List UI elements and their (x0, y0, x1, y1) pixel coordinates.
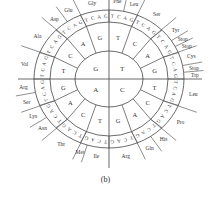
second-base-label: G (98, 34, 103, 41)
second-base-label: C (81, 111, 85, 118)
third-base-label: A (40, 86, 46, 91)
third-base-label: C (97, 138, 102, 144)
third-base-label: C (141, 22, 147, 28)
third-base-label: T (46, 50, 52, 55)
amino-acid-label: Arg (19, 84, 28, 90)
second-base-label: C (145, 99, 149, 106)
third-base-label: G (110, 139, 114, 144)
amino-acid-label: Trp (191, 72, 199, 78)
middle-divider (122, 105, 132, 132)
third-base-label: C (163, 109, 169, 115)
third-base-label: T (156, 34, 162, 40)
middle-divider (54, 57, 77, 68)
amino-acid-label: Glu (64, 7, 73, 13)
amino-acid-label: Stop (189, 65, 199, 71)
third-base-label: C (145, 126, 151, 132)
third-base-label: T (84, 17, 89, 23)
amino-acid-label: Asp (50, 16, 59, 22)
first-base-label: T (120, 65, 125, 73)
amino-acid-label: Tyr (172, 27, 180, 33)
third-base-label: T (135, 19, 140, 25)
second-base-label: C (68, 52, 72, 59)
third-base-label: C (160, 39, 166, 45)
third-base-label: C (71, 129, 77, 135)
amino-acid-label: Thr (57, 141, 65, 147)
amino-acid-label: Asn (38, 125, 47, 131)
third-base-label: A (66, 126, 72, 132)
third-base-label: C (171, 62, 177, 67)
figure-caption: (b) (0, 175, 211, 184)
third-base-label: T (43, 98, 49, 103)
amino-acid-label: Stop (182, 43, 192, 49)
amino-acid-label: Val (21, 61, 29, 67)
second-base-label: A (145, 52, 150, 59)
third-base-label: C (91, 15, 96, 21)
third-base-label: A (172, 68, 178, 73)
third-base-label: T (111, 14, 114, 19)
amino-acid-label: Leu (130, 1, 139, 7)
second-base-label: G (152, 67, 157, 74)
first-base-label: C (120, 86, 125, 94)
second-base-label: G (116, 117, 121, 124)
third-base-label: A (52, 38, 58, 44)
middle-divider (122, 26, 132, 53)
amino-acid-label: Met (76, 149, 85, 155)
third-base-label: A (90, 137, 95, 143)
amino-acid-label: Pro (177, 119, 185, 125)
amino-acid-divider (124, 0, 128, 11)
third-base-label: T (104, 139, 107, 144)
middle-divider (86, 105, 96, 132)
third-base-label: A (123, 15, 128, 21)
third-base-label: A (146, 26, 152, 32)
third-base-label: A (140, 130, 146, 136)
third-base-label: C (41, 91, 47, 96)
amino-acid-divider (16, 92, 36, 96)
second-base-label: T (116, 34, 120, 41)
amino-acid-label: Stop (178, 36, 188, 42)
third-base-label: A (116, 138, 121, 144)
third-base-label: C (172, 86, 178, 91)
third-base-label: C (117, 14, 122, 20)
third-base-label: G (104, 14, 108, 19)
middle-divider (140, 90, 163, 101)
second-base-label: C (133, 40, 137, 47)
amino-acid-label: His (160, 136, 168, 142)
third-base-label: A (41, 61, 47, 66)
amino-acid-label: Cys (187, 53, 196, 59)
amino-acid-label: Ala (34, 33, 43, 39)
second-base-label: T (98, 117, 102, 124)
third-base-label: A (171, 92, 177, 97)
amino-acid-label: Lys (29, 113, 37, 119)
second-base-label: T (153, 84, 157, 91)
amino-acid-label: Ser (153, 11, 161, 17)
middle-divider (86, 26, 96, 53)
third-base-label: G (173, 74, 178, 78)
third-base-label: T (166, 103, 172, 108)
second-base-label: A (68, 99, 73, 106)
second-base-label: T (61, 67, 65, 74)
amino-acid-label: Leu (189, 91, 198, 97)
third-base-label: A (163, 44, 169, 50)
amino-acid-label: Phe (113, 0, 122, 4)
amino-acid-label: Ser (23, 99, 31, 105)
amino-acid-label: Arg (122, 153, 131, 159)
third-base-label: G (40, 80, 45, 84)
second-base-label: A (81, 40, 86, 47)
second-base-label: A (132, 111, 137, 118)
third-base-label: T (169, 56, 175, 61)
third-base-label: A (97, 14, 102, 20)
third-base-label: C (40, 67, 46, 72)
third-base-label: C (52, 113, 58, 119)
first-base-label: A (93, 86, 98, 94)
amino-acid-label: Gly (88, 0, 97, 5)
third-base-label: T (40, 74, 45, 77)
second-base-label: G (61, 84, 66, 91)
third-base-label: T (78, 133, 83, 139)
third-base-label: T (129, 135, 134, 141)
third-base-label: T (57, 118, 63, 124)
third-base-label: G (43, 55, 49, 60)
third-base-label: A (49, 108, 55, 114)
third-base-label: C (66, 25, 72, 31)
third-base-label: A (72, 22, 78, 28)
third-base-label: T (173, 80, 178, 83)
